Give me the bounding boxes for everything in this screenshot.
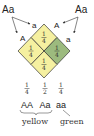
cell-bottom-den: 4 [42,64,46,71]
cell-left-den: 4 [29,51,33,58]
ratio-2-num: 1 [43,81,47,88]
phenotype-green: green [60,117,84,126]
cell-right-num: 1 [55,44,59,51]
cell-right-den: 4 [55,51,59,58]
cell-bottom-num: 1 [42,57,46,64]
gamete-left-bottom: A [20,34,26,43]
genotype-aa: aa [56,100,66,110]
cell-top-num: 1 [42,30,46,37]
genotype-AA: AA [21,100,33,110]
parent-right-label: Aa [75,4,88,15]
ratio-2-den: 2 [43,88,47,95]
gamete-left-top: a [32,21,37,30]
parent-left-label: Aa [2,4,15,15]
ratio-3-num: 1 [59,81,63,88]
arrow-left-to-A [12,17,17,33]
cell-left-num: 1 [29,44,33,51]
yellow-brace [20,110,52,115]
gamete-right-top: A [54,21,60,30]
green-connector [63,110,70,116]
phenotype-yellow: yellow [21,117,48,126]
ratio-1-den: 4 [25,88,29,95]
cell-top-den: 4 [42,37,46,44]
genotype-Aa: Aa [39,100,50,110]
arrow-left-to-a [12,17,30,24]
punnett-diamond-diagram: Aa Aa a A A a 1 4 1 4 1 4 1 4 1 4 1 2 1 [0,0,94,136]
arrow-right-to-a [74,17,78,33]
ratio-1-num: 1 [25,81,29,88]
arrow-right-to-A [63,17,78,23]
ratio-3-den: 4 [59,88,63,95]
gamete-right-bottom: a [66,35,71,44]
